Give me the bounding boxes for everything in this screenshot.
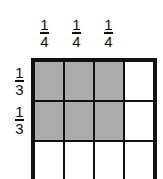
denominator: 4 xyxy=(40,35,48,48)
grid-cell-shaded xyxy=(34,101,64,141)
numerator: 1 xyxy=(15,66,23,79)
side-fraction-1: 1 3 xyxy=(15,66,24,96)
grid-cell xyxy=(34,141,64,179)
numerator: 1 xyxy=(15,105,23,118)
grid-cell xyxy=(124,141,154,179)
grid-cell xyxy=(64,141,94,179)
side-fraction-2: 1 3 xyxy=(15,105,24,135)
grid-cell-shaded xyxy=(64,61,94,101)
top-fraction-1: 1 4 xyxy=(40,18,49,48)
denominator: 3 xyxy=(15,83,23,96)
numerator: 1 xyxy=(40,18,48,31)
grid-cell-shaded xyxy=(34,61,64,101)
denominator: 4 xyxy=(72,35,80,48)
top-fraction-2: 1 4 xyxy=(72,18,81,48)
grid-cell xyxy=(94,141,124,179)
fraction-grid xyxy=(31,58,157,179)
grid-cell-shaded xyxy=(94,101,124,141)
grid-cell-shaded xyxy=(64,101,94,141)
top-fraction-3: 1 4 xyxy=(104,18,113,48)
grid-cell-shaded xyxy=(94,61,124,101)
denominator: 3 xyxy=(15,122,23,135)
numerator: 1 xyxy=(72,18,80,31)
grid-cell xyxy=(124,61,154,101)
grid-cell xyxy=(124,101,154,141)
numerator: 1 xyxy=(104,18,112,31)
denominator: 4 xyxy=(104,35,112,48)
